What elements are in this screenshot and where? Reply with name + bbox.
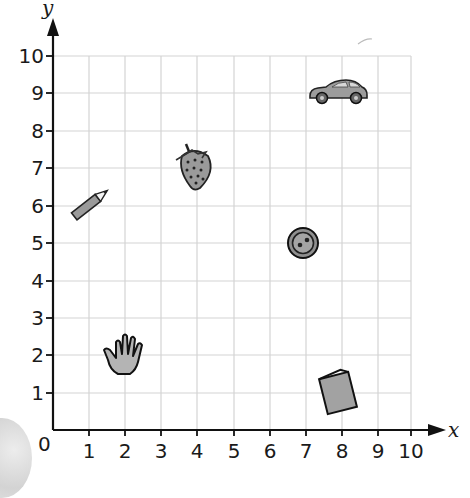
x-tick-label: 5 <box>228 441 241 461</box>
y-tick-label: 2 <box>31 345 44 365</box>
x-tick-label: 2 <box>119 441 132 461</box>
grid-lines <box>53 56 411 430</box>
y-tick-label: 1 <box>31 383 44 403</box>
y-tick-label: 9 <box>31 83 44 103</box>
origin-label: 0 <box>38 434 51 454</box>
pencil-icon <box>71 187 110 220</box>
button-icon <box>288 228 318 258</box>
y-axis-arrow-icon <box>47 18 59 36</box>
y-tick-label: 8 <box>31 121 44 141</box>
y-axis-label: y <box>42 0 53 20</box>
y-tick-label: 10 <box>19 46 44 66</box>
y-tick-label: 3 <box>31 308 44 328</box>
y-tick-label: 5 <box>31 233 44 253</box>
hand-icon <box>104 335 142 375</box>
x-tick-label: 10 <box>398 441 423 461</box>
strawberry-icon <box>176 144 211 190</box>
x-tick-label: 8 <box>336 441 349 461</box>
y-tick-label: 4 <box>31 271 44 291</box>
x-axis-arrow-icon <box>428 424 446 436</box>
x-tick-label: 7 <box>300 441 313 461</box>
stray-mark <box>358 39 372 44</box>
axes <box>53 30 432 430</box>
book-icon <box>318 368 357 414</box>
x-tick-label: 9 <box>372 441 385 461</box>
x-tick-label: 1 <box>83 441 96 461</box>
x-tick-label: 6 <box>264 441 277 461</box>
y-tick-label: 6 <box>31 196 44 216</box>
y-tick-label: 7 <box>31 158 44 178</box>
car-icon <box>310 80 367 104</box>
axis-ticks <box>46 56 411 436</box>
x-tick-label: 4 <box>191 441 204 461</box>
x-tick-label: 3 <box>155 441 168 461</box>
x-axis-label: x <box>448 418 459 442</box>
